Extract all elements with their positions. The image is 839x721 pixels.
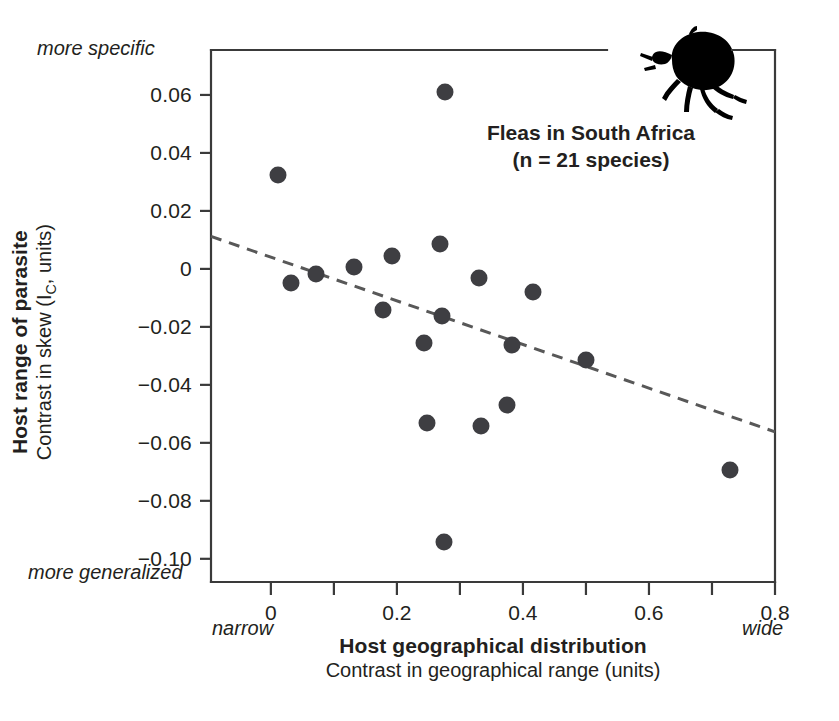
data-point	[577, 352, 594, 369]
x-axis-title-sub: Contrast in geographical range (units)	[211, 658, 775, 682]
data-point	[498, 396, 515, 413]
data-point	[270, 166, 287, 183]
data-point	[437, 84, 454, 101]
data-point	[346, 258, 363, 275]
y-tick-label: −0.08	[138, 489, 192, 513]
y-tick-label: 0.04	[150, 141, 192, 165]
data-point	[525, 283, 542, 300]
data-point	[283, 274, 300, 291]
y-axis-tick-marks	[200, 95, 211, 559]
data-point	[375, 302, 392, 319]
data-point	[471, 270, 488, 287]
data-point	[415, 335, 432, 352]
chart-annotation: Fleas in South Africa (n = 21 species)	[466, 120, 716, 174]
x-tick-label: 0.4	[508, 601, 537, 625]
y-tick-label: −0.10	[138, 547, 192, 571]
trend-line	[211, 236, 775, 431]
y-axis-high-end-label: more specific	[37, 37, 155, 60]
annotation-line-2: (n = 21 species)	[466, 147, 716, 174]
data-point	[308, 266, 325, 283]
data-point	[472, 418, 489, 435]
x-axis-title: Host geographical distribution Contrast …	[211, 634, 775, 682]
data-point	[504, 336, 521, 353]
data-point	[436, 534, 453, 551]
flea-silhouette-icon	[636, 24, 754, 124]
data-point	[431, 236, 448, 253]
data-point	[418, 415, 435, 432]
y-tick-label: −0.02	[138, 315, 192, 339]
y-tick-label: −0.04	[138, 373, 192, 397]
x-tick-label: 0.8	[760, 601, 789, 625]
x-tick-label: 0	[265, 601, 277, 625]
y-tick-label: 0	[180, 257, 192, 281]
y-axis-title-sub: Contrast in skew (IC, units)	[32, 132, 60, 552]
y-tick-label: −0.06	[138, 431, 192, 455]
data-point	[434, 308, 451, 325]
x-tick-label: 0.6	[634, 601, 663, 625]
y-tick-label: 0.02	[150, 199, 192, 223]
x-tick-label: 0.2	[382, 601, 411, 625]
y-tick-label: 0.06	[150, 83, 192, 107]
y-axis-title-main: Host range of parasite	[8, 132, 32, 552]
y-axis-title-subscript: C	[43, 284, 59, 294]
chart-page: more specific more generalized narrow wi…	[0, 0, 839, 721]
y-axis-title: Host range of parasite Contrast in skew …	[8, 132, 60, 552]
y-axis-title-sub-pre: Contrast in skew (I	[33, 295, 55, 461]
data-point	[383, 247, 400, 264]
x-axis-title-main: Host geographical distribution	[211, 634, 775, 658]
data-point	[721, 461, 738, 478]
x-axis-tick-marks	[271, 582, 775, 595]
annotation-line-1: Fleas in South Africa	[466, 120, 716, 147]
y-axis-title-sub-post: , units)	[33, 224, 55, 284]
